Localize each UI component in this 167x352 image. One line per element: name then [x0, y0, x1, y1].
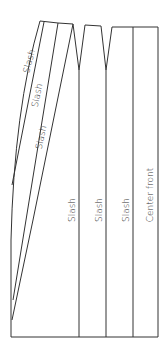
fan-slash-label-2: Slash [30, 83, 45, 109]
fan-slash-line-3b [12, 220, 33, 320]
vertical-slash-label-2: Slash [94, 198, 104, 222]
panel-2-waist [85, 25, 101, 26]
vertical-slash-label-3: Slash [121, 198, 131, 222]
dart-2 [101, 26, 112, 70]
vertical-slash-label-1: Slash [67, 198, 77, 222]
fan-slash-label-3: Slash [34, 125, 49, 151]
fan-waist [40, 21, 73, 24]
center-front-label: Center front [145, 167, 155, 222]
dart-1 [73, 24, 85, 70]
pattern-diagram: Slash Slash Slash Slash Slash Slash Cent… [0, 0, 167, 352]
